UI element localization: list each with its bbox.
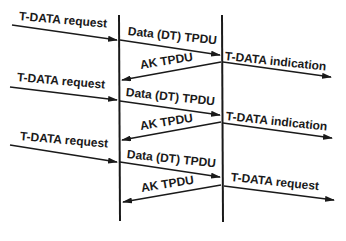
sequence-diagram: T-DATA request Data (DT) TPDU AK TPDU T-…	[0, 0, 346, 241]
sender-lifeline	[119, 15, 120, 221]
receiver-lifeline	[222, 15, 223, 222]
